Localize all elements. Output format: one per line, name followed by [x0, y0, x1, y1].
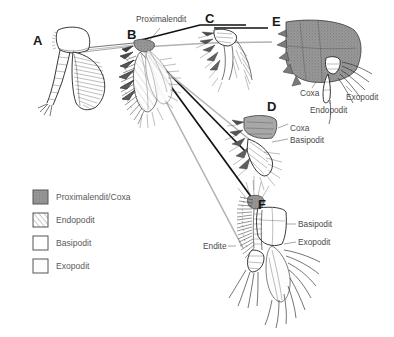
panel-letter-c: C [205, 11, 215, 26]
leader-a-to-b [84, 43, 134, 48]
panel-c-plume-setae [233, 46, 251, 90]
panel-a-endopodit-left [47, 50, 60, 103]
leader-lines [84, 25, 272, 248]
panel-letter-d: D [267, 99, 276, 114]
label-e-endopodit: Endopodit [310, 105, 348, 115]
panel-f-exopodit [266, 246, 290, 302]
label-e-exopodit: Exopodit [346, 92, 379, 102]
legend-label-basipodit: Basipodit [56, 238, 92, 248]
label-d-coxa: Coxa [290, 123, 310, 133]
panel-letter-b: B [127, 27, 136, 42]
label-proximalendit-top: Proximalendit [136, 14, 187, 24]
panel-a-drawing [38, 27, 105, 116]
panel-a-segment-lines [49, 57, 69, 100]
legend-label-proximalendit-coxa: Proximalendit/Coxa [56, 192, 131, 202]
tick-d-coxa [278, 124, 288, 128]
legend-label-endopodit: Endopodit [56, 215, 95, 225]
legend: Proximalendit/Coxa Endopodit Basipodit E… [33, 190, 131, 273]
panel-d-coxa [244, 116, 277, 139]
panel-f-drawing [229, 180, 320, 328]
panel-c-endopodit-2 [229, 46, 233, 80]
panel-letter-e: E [272, 14, 281, 29]
label-f-basipodit: Basipodit [298, 219, 333, 229]
legend-label-exopodit: Exopodit [56, 261, 90, 271]
figure-root: A B C D E F Proximalendit Coxa Endopodit… [0, 0, 394, 337]
panel-f-endite-column [253, 209, 254, 248]
panel-c-exopodit [236, 40, 252, 80]
panel-f-distal-setae [229, 270, 258, 308]
label-f-exopodit: Exopodit [298, 237, 331, 247]
tick-f-exopodit [284, 242, 296, 244]
tick-proximalendit [150, 28, 160, 40]
panel-letter-f: F [258, 197, 266, 212]
panel-c-drawing [196, 29, 252, 92]
morphology-plate: A B C D E F Proximalendit Coxa Endopodit… [0, 0, 394, 337]
legend-swatch-exopodit [33, 259, 48, 273]
panel-a-endopodit-right [53, 52, 70, 105]
label-e-coxa: Coxa [300, 88, 320, 98]
panel-f-endite-setae [237, 197, 254, 258]
legend-swatch-basipodit [33, 236, 48, 250]
panel-e-coxa [286, 20, 361, 82]
label-d-basipodit: Basipodit [290, 135, 325, 145]
panel-a-terminal-claws [38, 104, 52, 116]
legend-swatch-endopodit [33, 213, 48, 227]
tick-d-basipodit [272, 139, 288, 142]
panel-b-proximal-endite [134, 39, 155, 52]
panel-c-endopodit [222, 46, 225, 80]
panel-letter-a: A [33, 33, 43, 48]
panel-a-exopodit-fan [72, 52, 105, 110]
label-f-endite: Endite [203, 241, 227, 251]
legend-swatch-proximalendit-coxa [33, 190, 48, 204]
